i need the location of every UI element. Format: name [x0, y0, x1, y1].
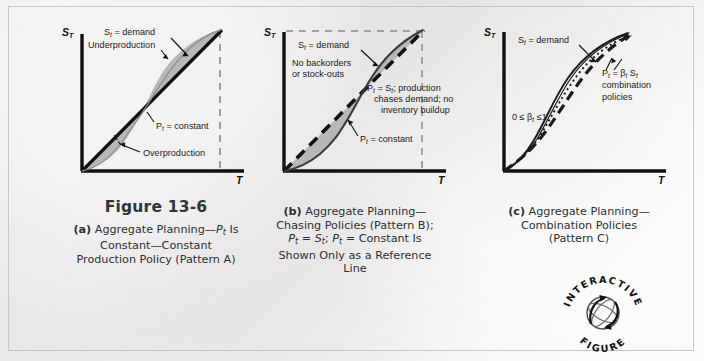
panel-c-combination-curve-1 [504, 34, 628, 171]
panel-a-demand-label: St = demand [104, 27, 155, 38]
panel-c-x-axis-label: T [658, 174, 666, 186]
panel-a-underproduction-label: Underproduction [88, 40, 155, 50]
caption-b-line-5: Line [240, 262, 470, 276]
caption-c-line-3: (Pattern C) [466, 232, 692, 246]
panel-b-chase-demand-label-3: inventory buildup [381, 105, 450, 115]
panel-c-combination-curve-dotted [504, 36, 628, 171]
panel-b-no-backorders-label-1: No backorders [292, 58, 352, 68]
panel-a-constant-leader [147, 112, 154, 122]
panel-b-no-backorders-label-2: or stock-outs [292, 69, 345, 79]
panel-b-x-axis-label: T [438, 174, 446, 186]
panel-c-y-axis-label: ST [484, 26, 496, 40]
panel-c-beta-range-label: 0 ≤ βt ≤1 [512, 112, 547, 123]
panel-c-combination-label-2: combination [602, 80, 651, 90]
panel-c-demand-curve [504, 33, 628, 171]
panel-c-combination-arrow-1 [611, 58, 616, 63]
caption-b-line-2: Chasing Policies (Pattern B); [240, 219, 470, 233]
panel-a-x-axis-label: T [236, 174, 244, 186]
chart-panel-a: ST T St = demand Underproduction Pt = co… [48, 14, 262, 194]
figure-title: Figure 13-6 [40, 198, 272, 216]
panel-c-demand-label: St = demand [518, 35, 569, 46]
panel-b-chase-demand-label-1: Pt = St; production [367, 83, 441, 94]
caption-b-line-4: Shown Only as a Reference [240, 249, 470, 263]
panel-a-y-axis-label: ST [62, 26, 74, 40]
caption-panel-c: (c) Aggregate Planning— Combination Poli… [466, 205, 692, 246]
panel-a-constant-production-label: Pt = constant [156, 121, 209, 132]
caption-b-line-3: Pt = St; Pt = Constant Is [240, 232, 470, 248]
chart-panel-c: ST T St = demand 0 ≤ βt ≤1 Pt = βt St co… [470, 14, 684, 194]
caption-c-line-1: (c) Aggregate Planning— [466, 205, 692, 219]
panel-c-demand-arrow [590, 57, 596, 62]
interactive-figure-stamp[interactable]: INTERACTIVE FIGURE [558, 268, 648, 356]
figure-13-6: ST T St = demand Underproduction Pt = co… [0, 0, 704, 361]
panel-b-demand-label: St = demand [298, 40, 349, 51]
panel-b-chase-demand-label-2: chases demand; no [374, 94, 453, 104]
panel-b-constant-production-label: Pt = constant [360, 134, 413, 145]
caption-b-line-1: (b) Aggregate Planning— [240, 205, 470, 219]
chart-panel-b: ST T St = demand No backorders or stock-… [250, 14, 464, 194]
panel-c-combination-label-3: policies [602, 92, 633, 102]
stamp-bottom-text: FIGURE [578, 335, 628, 354]
panel-c-combination-label-1: Pt = βt St [602, 68, 639, 79]
caption-panel-b: (b) Aggregate Planning— Chasing Policies… [240, 205, 470, 276]
panel-c-dashed-policy-curve [504, 35, 630, 171]
caption-c-line-2: Combination Policies [466, 219, 692, 233]
panel-a-overproduction-label: Overproduction [143, 148, 205, 158]
panel-b-y-axis-label: ST [264, 26, 276, 40]
